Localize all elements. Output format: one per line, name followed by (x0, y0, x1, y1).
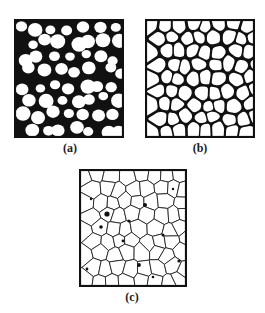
faceted-particles-image (145, 19, 255, 138)
grain-structure-image (79, 169, 187, 287)
panel-a-label: (a) (63, 142, 77, 154)
particle-packing-image (14, 19, 124, 138)
panel-c-grain-structure (79, 169, 187, 287)
panel-a-particle-packing (14, 19, 124, 138)
panel-b-faceted-particles (145, 19, 255, 138)
panel-b-label: (b) (193, 142, 208, 154)
panel-c-label: (c) (125, 291, 138, 303)
